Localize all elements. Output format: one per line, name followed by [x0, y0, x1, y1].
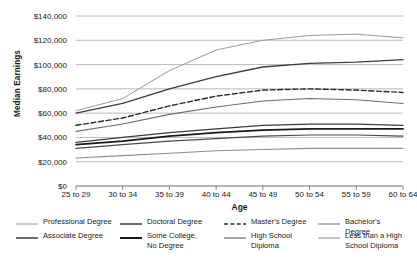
series-line — [76, 60, 403, 113]
series-line — [76, 89, 403, 125]
legend-swatch-line-icon — [120, 219, 142, 228]
chart-legend: Professional DegreeDoctoral DegreeMaster… — [8, 217, 404, 259]
y-tick-label: $40,000 — [38, 133, 67, 142]
y-tick-label: $20,000 — [38, 157, 67, 166]
legend-item[interactable]: Professional Degree — [16, 217, 112, 228]
legend-label: Doctoral Degree — [147, 217, 202, 227]
x-tick-label: 50 to 54 — [295, 190, 324, 199]
x-tick-label: 25 to 29 — [62, 190, 91, 199]
y-tick-label: $80,000 — [38, 84, 67, 93]
x-tick-label: 45 to 49 — [248, 190, 277, 199]
legend-item[interactable]: Doctoral Degree — [120, 217, 202, 228]
y-tick-label: $120,000 — [34, 36, 67, 45]
legend-swatch-line-icon — [224, 233, 246, 242]
series-line — [76, 124, 403, 142]
legend-item[interactable]: Some College, No Degree — [120, 231, 197, 250]
x-tick-label: 30 to 34 — [108, 190, 137, 199]
legend-label: Professional Degree — [43, 217, 112, 227]
x-tick-label: 60 to 64 — [389, 190, 417, 199]
y-axis-tick-labels: $0$20,000$40,000$60,000$80,000$100,000$1… — [12, 0, 70, 200]
x-axis-title: Age — [76, 202, 403, 212]
y-tick-label: $60,000 — [38, 109, 67, 118]
legend-label: Less than a High School Diploma — [345, 231, 402, 250]
series-lines — [76, 34, 403, 158]
y-tick-label: $140,000 — [34, 12, 67, 21]
legend-label: Associate Degree — [43, 231, 103, 241]
legend-swatch-line-icon — [16, 233, 38, 242]
y-tick-label: $100,000 — [34, 60, 67, 69]
plot-area — [76, 16, 403, 186]
legend-label: Master's Degree — [251, 217, 306, 227]
legend-swatch-line-icon — [224, 219, 246, 228]
x-tick-label: 35 to 39 — [155, 190, 184, 199]
plot-svg — [76, 16, 403, 186]
legend-swatch-line-icon — [16, 219, 38, 228]
legend-swatch-line-icon — [318, 219, 340, 228]
legend-item[interactable]: Master's Degree — [224, 217, 306, 228]
legend-item[interactable]: High School Diploma — [224, 231, 292, 250]
legend-swatch-line-icon — [318, 233, 340, 242]
legend-item[interactable]: Associate Degree — [16, 231, 103, 242]
legend-swatch-line-icon — [120, 233, 142, 242]
x-tick-label: 55 to 59 — [342, 190, 371, 199]
series-line — [76, 99, 403, 132]
x-tick-label: 40 to 44 — [202, 190, 231, 199]
legend-label: Some College, No Degree — [147, 231, 197, 250]
legend-label: High School Diploma — [251, 231, 292, 250]
legend-item[interactable]: Less than a High School Diploma — [318, 231, 402, 250]
series-line — [76, 148, 403, 158]
